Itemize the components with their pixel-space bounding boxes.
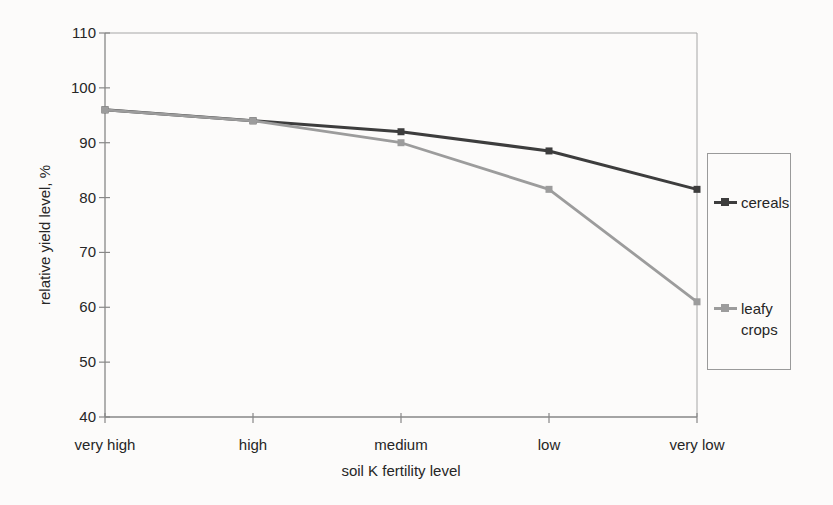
y-tick-label: 110	[72, 24, 96, 41]
y-tick-label: 100	[71, 79, 96, 96]
x-tick-label: very high	[75, 436, 136, 453]
x-tick-label: medium	[374, 436, 427, 453]
leafy-crops-marker	[694, 298, 701, 305]
y-tick-label: 70	[79, 243, 96, 260]
leafy-crops-marker	[102, 106, 109, 113]
legend-label-cereals: cereals	[741, 192, 789, 213]
legend-label-leafy-crops: leafy crops	[741, 298, 788, 340]
cereals-line	[105, 110, 697, 190]
generated-chart-layer: 110100908070605040very highhighmediumlow…	[71, 24, 725, 453]
x-tick-label: high	[239, 436, 267, 453]
leafy-crops-marker	[546, 186, 553, 193]
y-tick-label: 50	[79, 353, 96, 370]
cereals-series-marker-icon	[714, 192, 737, 213]
leafy-crops-marker	[398, 139, 405, 146]
x-axis-title: soil K fertility level	[341, 462, 460, 479]
cereals-marker	[398, 128, 405, 135]
legend-box: cereals leafy crops	[707, 153, 791, 370]
leafy-crops-line	[105, 110, 697, 302]
leafy-crops-series-marker-icon	[714, 298, 737, 319]
y-tick-label: 60	[79, 298, 96, 315]
leafy-crops-marker	[250, 117, 257, 124]
y-tick-label: 90	[79, 134, 96, 151]
x-tick-label: low	[538, 436, 561, 453]
leafy-crops-legend-square	[721, 304, 729, 312]
x-tick-label: very low	[669, 436, 724, 453]
cereals-marker	[694, 186, 701, 193]
y-tick-label: 80	[79, 189, 96, 206]
legend-item-leafy-crops: leafy crops	[714, 298, 788, 340]
line-chart-figure: 110100908070605040very highhighmediumlow…	[0, 0, 833, 505]
cereals-marker	[546, 147, 553, 154]
y-tick-label: 40	[79, 408, 96, 425]
legend-item-cereals: cereals	[714, 192, 788, 213]
cereals-legend-square	[721, 198, 729, 206]
y-axis-title: relative yield level, %	[36, 165, 53, 305]
